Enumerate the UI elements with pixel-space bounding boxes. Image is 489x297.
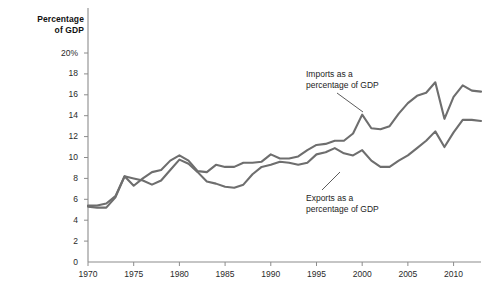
axes-group bbox=[84, 8, 481, 266]
x-tick-label-1975: 1975 bbox=[114, 270, 154, 279]
leader-line-exports bbox=[322, 172, 340, 190]
y-tick-label-20: 20% bbox=[48, 49, 78, 58]
y-tick-label-4: 4 bbox=[48, 216, 78, 225]
x-tick-label-1995: 1995 bbox=[296, 270, 336, 279]
x-tick-label-1980: 1980 bbox=[159, 270, 199, 279]
y-tick-label-12: 12 bbox=[48, 132, 78, 141]
annotation-exports-line1: Exports as a bbox=[306, 193, 379, 204]
x-tick-label-1990: 1990 bbox=[251, 270, 291, 279]
x-tick-label-2000: 2000 bbox=[342, 270, 382, 279]
y-tick-label-18: 18 bbox=[48, 69, 78, 78]
annotation-exports: Exports as a percentage of GDP bbox=[306, 193, 379, 215]
x-tick-label-1970: 1970 bbox=[68, 270, 108, 279]
series-line-exports bbox=[88, 120, 481, 208]
x-tick-label-1985: 1985 bbox=[205, 270, 245, 279]
x-tick-label-2005: 2005 bbox=[388, 270, 428, 279]
x-tick-label-2010: 2010 bbox=[434, 270, 474, 279]
y-tick-label-16: 16 bbox=[48, 90, 78, 99]
y-tick-label-0: 0 bbox=[48, 258, 78, 267]
plot-area bbox=[0, 0, 489, 297]
chart-container: Percentage of GDP 02468101214161820% 197… bbox=[0, 0, 489, 297]
y-axis-title-line2: of GDP bbox=[8, 25, 84, 36]
y-tick-label-10: 10 bbox=[48, 153, 78, 162]
y-tick-label-2: 2 bbox=[48, 237, 78, 246]
y-tick-label-8: 8 bbox=[48, 174, 78, 183]
annotation-imports-line1: Imports as a bbox=[306, 69, 379, 80]
y-axis-title-line1: Percentage bbox=[8, 14, 84, 25]
annotation-imports-line2: percentage of GDP bbox=[306, 80, 379, 91]
annotation-imports: Imports as a percentage of GDP bbox=[306, 69, 379, 91]
y-tick-label-14: 14 bbox=[48, 111, 78, 120]
annotation-exports-line2: percentage of GDP bbox=[306, 204, 379, 215]
y-tick-label-6: 6 bbox=[48, 195, 78, 204]
data-series-group bbox=[88, 82, 481, 207]
leader-line-imports bbox=[337, 93, 363, 112]
